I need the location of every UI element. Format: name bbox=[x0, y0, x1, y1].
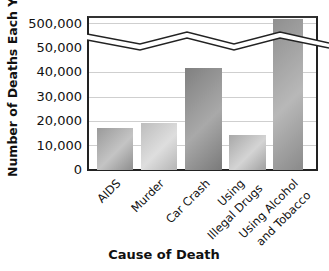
axis-break-zigzag bbox=[87, 30, 329, 60]
bar-murder bbox=[141, 123, 177, 170]
bar-car-crash bbox=[185, 68, 222, 170]
x-axis-title: Cause of Death bbox=[0, 247, 328, 262]
y-tick-0: 0 bbox=[2, 163, 82, 177]
y-tick-10000: 10,000 bbox=[2, 139, 82, 153]
y-tick-30000: 30,000 bbox=[2, 90, 82, 104]
x-label-murder: Murder bbox=[129, 177, 166, 214]
y-tick-20000: 20,000 bbox=[2, 114, 82, 128]
x-label-aids: AIDS bbox=[95, 177, 123, 205]
x-label-car-crash: Car Crash bbox=[164, 177, 212, 225]
y-tick-50000: 50,000 bbox=[2, 41, 82, 55]
bar-illegal-drugs bbox=[229, 135, 266, 170]
y-tick-500000: 500,000 bbox=[2, 17, 82, 31]
bar-aids bbox=[97, 128, 133, 170]
y-tick-40000: 40,000 bbox=[2, 65, 82, 79]
